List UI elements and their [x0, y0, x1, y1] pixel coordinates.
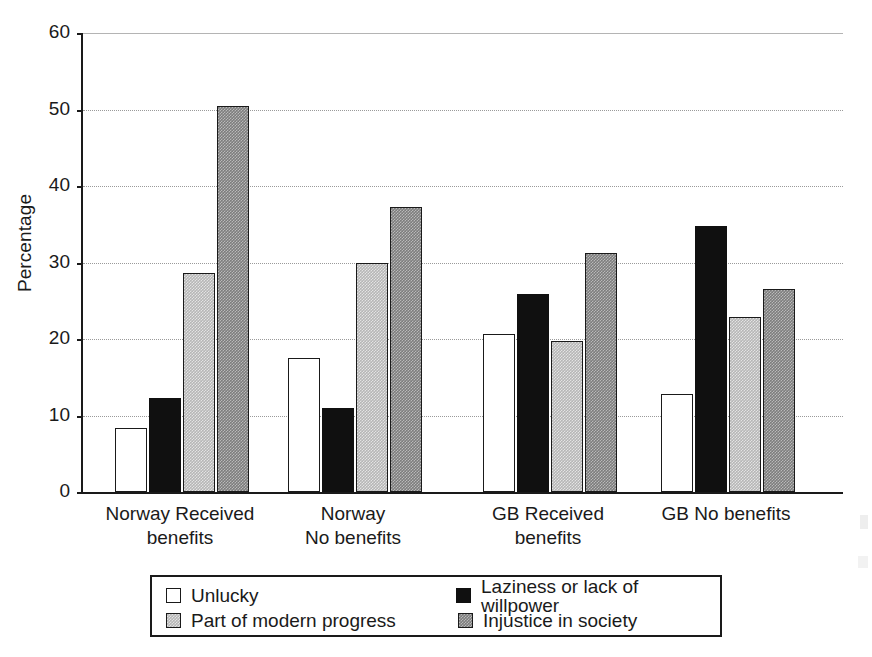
scan-artifact	[860, 515, 868, 529]
bar-1-unlucky	[115, 428, 147, 492]
bar-2-laziness-or-lack-of-willpower	[322, 408, 354, 492]
bar-4-part-of-modern-progress	[729, 317, 761, 492]
y-tick-label: 20	[8, 328, 70, 347]
legend-label-laziness: Laziness or lack of willpower	[481, 577, 720, 615]
y-tick-label: 40	[8, 175, 70, 194]
y-tick-label: 10	[8, 405, 70, 424]
y-tick-mark	[77, 263, 83, 265]
legend-row-2: Part of modern progress Injustice in soc…	[152, 608, 720, 633]
legend-row-1: Unlucky Laziness or lack of willpower	[152, 583, 720, 608]
bar-2-part-of-modern-progress	[356, 263, 388, 493]
y-axis-title: Percentage	[14, 143, 36, 343]
bar-4-laziness-or-lack-of-willpower	[695, 226, 727, 492]
bar-1-laziness-or-lack-of-willpower	[149, 398, 181, 492]
legend-swatch-modern-progress-icon	[166, 613, 181, 628]
bar-4-unlucky	[661, 394, 693, 492]
bar-3-unlucky	[483, 334, 515, 492]
y-tick-label: 60	[8, 22, 70, 41]
bar-3-laziness-or-lack-of-willpower	[517, 294, 549, 492]
bar-2-injustice-in-society	[390, 207, 422, 492]
legend-item-modern-progress[interactable]: Part of modern progress	[152, 611, 456, 630]
bar-3-injustice-in-society	[585, 253, 617, 492]
chart-legend: Unlucky Laziness or lack of willpower Pa…	[150, 575, 722, 637]
legend-swatch-unlucky-icon	[166, 588, 181, 603]
gridline	[83, 186, 843, 187]
x-category-label-2: Norway No benefits	[243, 502, 463, 550]
y-tick-mark	[77, 110, 83, 112]
gridline	[83, 110, 843, 111]
legend-label-modern-progress: Part of modern progress	[191, 611, 396, 630]
bar-4-injustice-in-society	[763, 289, 795, 492]
y-tick-label: 0	[8, 481, 70, 500]
bar-1-part-of-modern-progress	[183, 273, 215, 492]
legend-item-injustice[interactable]: Injustice in society	[456, 611, 637, 630]
bar-2-unlucky	[288, 358, 320, 492]
legend-label-injustice: Injustice in society	[483, 611, 637, 630]
y-tick-mark	[77, 186, 83, 188]
gridline	[83, 33, 843, 34]
legend-item-unlucky[interactable]: Unlucky	[152, 586, 454, 605]
bar-3-part-of-modern-progress	[551, 341, 583, 492]
y-tick-mark	[77, 416, 83, 418]
legend-label-unlucky: Unlucky	[191, 586, 259, 605]
y-tick-label: 50	[8, 99, 70, 118]
legend-swatch-laziness-icon	[456, 588, 471, 603]
y-tick-mark	[77, 33, 83, 35]
legend-item-laziness[interactable]: Laziness or lack of willpower	[454, 577, 720, 615]
scan-artifact	[858, 556, 868, 568]
x-category-label-4: GB No benefits	[616, 502, 836, 526]
bar-chart-figure: Percentage 0102030405060 Norway Received…	[0, 0, 872, 657]
gridline	[83, 263, 843, 264]
y-tick-mark	[77, 492, 83, 494]
bar-1-injustice-in-society	[217, 106, 249, 492]
plot-area	[81, 33, 843, 494]
y-tick-mark	[77, 339, 83, 341]
y-tick-label: 30	[8, 252, 70, 271]
legend-swatch-injustice-icon	[458, 613, 473, 628]
